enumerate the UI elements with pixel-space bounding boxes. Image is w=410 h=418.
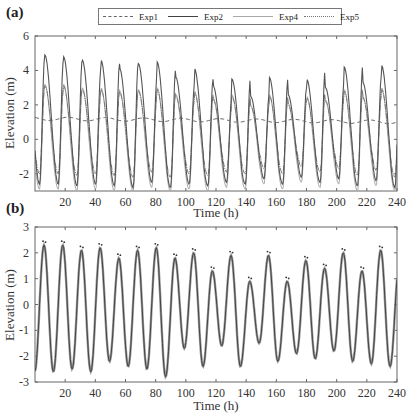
x-tick-label: 220 — [358, 195, 376, 209]
y-tick-label: -1 — [19, 323, 29, 337]
y-tick-label: 0 — [23, 298, 29, 312]
observed-point — [341, 248, 343, 250]
observed-point — [379, 245, 381, 247]
figure: 20406080100120140160180200220240-20246 2… — [0, 0, 410, 418]
observed-point — [98, 243, 100, 245]
x-tick-label: 80 — [150, 386, 162, 400]
observed-point — [304, 256, 306, 258]
series-exp2 — [35, 55, 397, 188]
observed-point — [232, 252, 234, 254]
y-tick-label: -2 — [19, 349, 29, 363]
observed-point — [285, 276, 287, 278]
x-tick-label: 100 — [177, 386, 195, 400]
observed-point — [248, 276, 250, 278]
x-tick-label: 40 — [89, 386, 101, 400]
y-tick-label: 4 — [23, 63, 29, 77]
observed-point — [136, 245, 138, 247]
panel-b-ylabel: Elevation (m) — [2, 269, 17, 341]
observed-point — [360, 266, 362, 268]
observed-point — [82, 246, 84, 248]
series-model-shadow — [35, 245, 397, 377]
y-tick-label: -3 — [19, 375, 29, 389]
observed-point — [213, 267, 215, 269]
x-tick-label: 200 — [328, 386, 346, 400]
observed-point — [45, 241, 47, 243]
y-tick-label: 2 — [23, 98, 29, 112]
observed-point — [267, 251, 269, 253]
panel-b-xlabel: Time (h) — [193, 398, 238, 413]
x-tick-label: 60 — [120, 195, 132, 209]
observed-point — [194, 249, 196, 251]
observed-point — [192, 248, 194, 250]
x-tick-label: 140 — [237, 195, 255, 209]
x-tick-label: 200 — [328, 195, 346, 209]
observed-point — [344, 249, 346, 251]
observed-point — [138, 246, 140, 248]
x-tick-label: 240 — [388, 195, 406, 209]
panel-b-plot: 20406080100120140160180200220240-3-2-101… — [19, 220, 406, 400]
panel-a-plot: 20406080100120140160180200220240-20246 — [19, 29, 406, 209]
observed-point — [381, 246, 383, 248]
y-tick-label: 6 — [23, 29, 29, 43]
y-tick-label: -2 — [19, 167, 29, 181]
y-tick-label: 1 — [23, 272, 29, 286]
observed-point — [176, 254, 178, 256]
observed-point — [117, 253, 119, 255]
observed-point — [363, 267, 365, 269]
x-tick-label: 80 — [150, 195, 162, 209]
x-tick-label: 140 — [237, 386, 255, 400]
observed-point — [173, 253, 175, 255]
x-tick-label: 240 — [388, 386, 406, 400]
observed-point — [229, 251, 231, 253]
observed-point — [250, 277, 252, 279]
x-tick-label: 40 — [89, 195, 101, 209]
panel-a-ylabel: Elevation (m) — [2, 77, 17, 149]
observed-point — [154, 243, 156, 245]
x-tick-label: 160 — [267, 195, 285, 209]
x-tick-label: 100 — [177, 195, 195, 209]
y-tick-label: 2 — [23, 246, 29, 260]
x-tick-label: 180 — [298, 386, 316, 400]
observed-point — [42, 240, 44, 242]
observed-point — [63, 241, 65, 243]
observed-point — [210, 266, 212, 268]
x-tick-label: 20 — [59, 195, 71, 209]
observed-point — [323, 264, 325, 266]
x-tick-label: 220 — [358, 386, 376, 400]
observed-point — [101, 244, 103, 246]
observed-point — [288, 277, 290, 279]
observed-point — [61, 240, 63, 242]
observed-point — [157, 244, 159, 246]
observed-point — [325, 265, 327, 267]
x-tick-label: 20 — [59, 386, 71, 400]
observed-point — [80, 245, 82, 247]
x-tick-label: 160 — [267, 386, 285, 400]
y-tick-label: 3 — [23, 220, 29, 234]
observed-point — [306, 257, 308, 259]
x-tick-label: 180 — [298, 195, 316, 209]
observed-point — [119, 254, 121, 256]
x-tick-label: 60 — [120, 386, 132, 400]
panel-a-xlabel: Time (h) — [193, 205, 238, 220]
y-tick-label: 0 — [23, 132, 29, 146]
observed-point — [269, 252, 271, 254]
